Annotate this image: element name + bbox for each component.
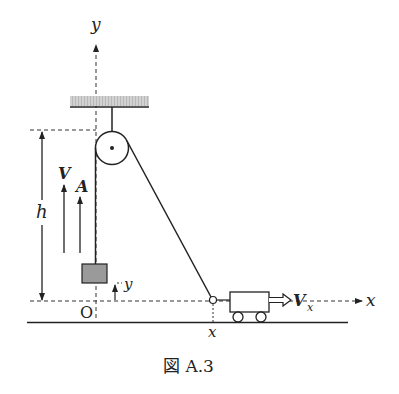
ceiling (70, 96, 149, 107)
pulley (96, 132, 129, 165)
acceleration-label: A (74, 177, 88, 196)
cart-body (230, 292, 269, 312)
rope-diagonal (127, 141, 211, 297)
hook (210, 297, 217, 304)
cart-velocity-arrow (269, 294, 291, 306)
cart-velocity-label: V (293, 291, 307, 310)
cart-velocity-subscript: x (307, 301, 314, 314)
origin-label: O (80, 303, 93, 322)
x-axis-label: x (366, 290, 376, 310)
block-height-label: y (123, 275, 133, 293)
height-label: h (36, 201, 48, 222)
cart-position-label: x (208, 323, 217, 341)
figure-caption: 図 A.3 (163, 356, 214, 376)
pulley-cart-diagram: y h V A y x O x (0, 0, 399, 394)
hanging-block (82, 264, 107, 283)
y-axis-label: y (90, 14, 101, 34)
velocity-label: V (58, 164, 72, 183)
cart (210, 292, 270, 322)
cart-wheel (256, 312, 266, 322)
cart-wheel (233, 312, 243, 322)
